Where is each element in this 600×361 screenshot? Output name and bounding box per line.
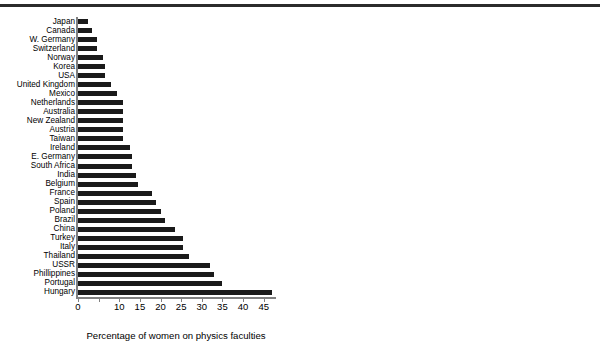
x-axis-tick-label: 45 bbox=[258, 302, 269, 312]
bar bbox=[78, 118, 123, 123]
bar bbox=[78, 64, 105, 69]
bar-row: Austria bbox=[78, 125, 274, 134]
bar-row: Switzerland bbox=[78, 44, 274, 53]
category-label: Korea bbox=[53, 63, 75, 71]
bar bbox=[78, 19, 88, 24]
chart-panel-physics-faculties: JapanCanadaW. GermanySwitzerlandNorwayKo… bbox=[0, 0, 320, 361]
x-axis-title-physics-faculties: Percentage of women on physics faculties bbox=[78, 330, 274, 342]
category-label: Netherlands bbox=[31, 99, 75, 107]
bar bbox=[78, 164, 132, 169]
bar bbox=[78, 73, 105, 78]
bar bbox=[78, 28, 92, 33]
bar bbox=[78, 109, 123, 114]
bar-row: Brazil bbox=[78, 216, 274, 225]
bar bbox=[78, 254, 189, 259]
category-label: Australia bbox=[43, 108, 75, 116]
category-label: India bbox=[57, 171, 75, 179]
bar bbox=[78, 136, 123, 141]
bar-row: E. Germany bbox=[78, 152, 274, 161]
bar-row: USA bbox=[78, 71, 274, 80]
category-label: Austria bbox=[50, 126, 75, 134]
category-label: E. Germany bbox=[31, 153, 75, 161]
bar-row: Canada bbox=[78, 26, 274, 35]
x-axis-tick-label: 35 bbox=[217, 302, 228, 312]
figure-two-bar-charts: JapanCanadaW. GermanySwitzerlandNorwayKo… bbox=[0, 0, 600, 361]
bar bbox=[78, 236, 183, 241]
bar-row: Japan bbox=[78, 17, 274, 26]
bar-row: Thailand bbox=[78, 252, 274, 261]
bar-row: Mexico bbox=[78, 89, 274, 98]
category-label: Italy bbox=[60, 243, 75, 251]
x-axis-line-left bbox=[76, 297, 276, 299]
bar-row: Ireland bbox=[78, 143, 274, 152]
x-axis-tick-label: 10 bbox=[114, 302, 125, 312]
category-label: New Zealand bbox=[27, 117, 75, 125]
x-axis-tick bbox=[99, 297, 100, 302]
bar-row: Italy bbox=[78, 243, 274, 252]
bar-row: United Kingdom bbox=[78, 80, 274, 89]
category-label: Hungary bbox=[44, 288, 75, 296]
bar bbox=[78, 145, 130, 150]
category-label: South Africa bbox=[31, 162, 75, 170]
category-label: United Kingdom bbox=[17, 81, 75, 89]
bar bbox=[78, 154, 132, 159]
bar bbox=[78, 191, 152, 196]
x-axis-tick-label: 25 bbox=[176, 302, 187, 312]
x-axis-tick-label: 40 bbox=[238, 302, 249, 312]
category-label: W. Germany bbox=[30, 35, 76, 43]
category-label: Thailand bbox=[44, 252, 75, 260]
bar-row: Korea bbox=[78, 62, 274, 71]
bar bbox=[78, 200, 156, 205]
bar-row: USSR bbox=[78, 261, 274, 270]
bar bbox=[78, 82, 111, 87]
category-label: Canada bbox=[46, 26, 75, 34]
bar bbox=[78, 281, 222, 286]
bar-row: Australia bbox=[78, 107, 274, 116]
category-label: China bbox=[54, 225, 75, 233]
category-label: France bbox=[50, 189, 75, 197]
bar bbox=[78, 290, 272, 295]
bar bbox=[78, 209, 161, 214]
category-label: Ireland bbox=[50, 144, 75, 152]
category-label: Turkey bbox=[50, 234, 75, 242]
category-label: Switzerland bbox=[33, 45, 75, 53]
bar-row: New Zealand bbox=[78, 116, 274, 125]
bar bbox=[78, 46, 97, 51]
bar-row: South Africa bbox=[78, 162, 274, 171]
category-label: USSR bbox=[52, 261, 75, 269]
category-label: Portugal bbox=[45, 279, 76, 287]
bar-row: Poland bbox=[78, 207, 274, 216]
bar bbox=[78, 182, 138, 187]
bar bbox=[78, 37, 97, 42]
category-label: Phillippines bbox=[34, 270, 75, 278]
category-label: Mexico bbox=[49, 90, 75, 98]
bar bbox=[78, 55, 103, 60]
bar bbox=[78, 263, 210, 268]
bar-row: Netherlands bbox=[78, 98, 274, 107]
bar bbox=[78, 272, 214, 277]
plot-area-physics-faculties: JapanCanadaW. GermanySwitzerlandNorwayKo… bbox=[78, 17, 274, 297]
bar-row: Portugal bbox=[78, 279, 274, 288]
bar bbox=[78, 245, 183, 250]
bar bbox=[78, 100, 123, 105]
bar-row: Spain bbox=[78, 198, 274, 207]
bar bbox=[78, 227, 175, 232]
category-label: Taiwan bbox=[50, 135, 76, 143]
bar-row: France bbox=[78, 189, 274, 198]
x-axis-tick-label: 15 bbox=[135, 302, 146, 312]
category-label: USA bbox=[58, 72, 75, 80]
x-axis-tick-label: 20 bbox=[155, 302, 166, 312]
category-label: Norway bbox=[47, 54, 75, 62]
bar-row: Belgium bbox=[78, 180, 274, 189]
bar-row: China bbox=[78, 225, 274, 234]
bar-row: Norway bbox=[78, 53, 274, 62]
bar bbox=[78, 218, 165, 223]
x-axis-tick-label: 30 bbox=[196, 302, 207, 312]
bar-row: Turkey bbox=[78, 234, 274, 243]
category-label: Poland bbox=[50, 207, 76, 215]
category-label: Japan bbox=[53, 17, 75, 25]
bar bbox=[78, 127, 123, 132]
bar bbox=[78, 91, 117, 96]
bar-row: Taiwan bbox=[78, 134, 274, 143]
bar bbox=[78, 173, 136, 178]
